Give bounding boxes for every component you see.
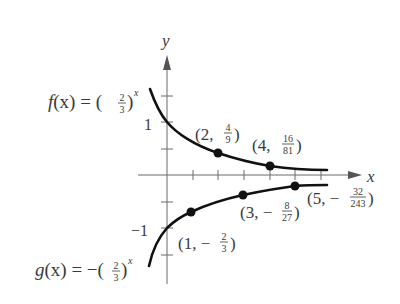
x-axis-label: x [366,167,375,186]
axes: x y 1 −1 [131,31,375,284]
label-point-2-4-9: (2, 4 9 ) [195,122,240,145]
point-f-2 [214,149,223,158]
y-axis-arrow-icon [163,55,171,70]
svg-text:g(x) = −(: g(x) = −( [35,259,104,281]
label-point-3-neg8-27: (3, − 8 27 ) [240,200,300,223]
svg-text:(5, −: (5, − [307,189,339,208]
point-g-3 [239,191,248,200]
point-g-1 [187,208,196,217]
label-point-4-16-81: (4, 16 81 ) [252,133,302,156]
svg-text:): ) [294,203,300,222]
point-g-5 [291,182,300,191]
svg-text:(1, −: (1, − [178,234,210,253]
svg-text:4: 4 [226,122,231,133]
svg-text:27: 27 [282,212,292,223]
svg-text:81: 81 [283,145,293,156]
svg-text:3: 3 [222,243,227,254]
svg-text:(2,: (2, [195,125,213,144]
svg-text:2: 2 [222,231,227,242]
svg-text:(4,: (4, [252,136,270,155]
svg-text:9: 9 [226,134,231,145]
svg-text:8: 8 [285,200,290,211]
svg-text:): ) [127,91,133,113]
svg-text:x: x [133,87,139,98]
svg-text:): ) [368,189,374,208]
y-axis-label: y [160,31,170,50]
svg-text:): ) [230,234,236,253]
label-point-5-neg32-243: (5, − 32 243 ) [307,186,374,209]
y-tick-label-1: 1 [144,116,152,133]
f-function-label: f(x) = ( 2 3 ) x [48,87,139,115]
y-tick-label-neg1: −1 [131,222,148,239]
svg-text:3: 3 [114,272,119,283]
g-curve [149,185,327,266]
svg-text:x: x [127,255,133,266]
point-f-4 [266,162,275,171]
exponential-graph: x y 1 −1 f(x) = ( 2 3 ) x g(x) = −( 2 3 … [0,0,400,304]
g-function-label: g(x) = −( 2 3 ) x [35,255,133,283]
svg-text:16: 16 [283,133,293,144]
svg-text:): ) [121,259,127,281]
svg-text:2: 2 [120,92,125,103]
svg-text:): ) [234,125,240,144]
svg-text:(3, −: (3, − [240,203,272,222]
svg-text:): ) [296,136,302,155]
svg-text:32: 32 [353,186,363,197]
label-point-1-neg2-3: (1, − 2 3 ) [178,231,236,254]
svg-text:243: 243 [351,198,366,209]
svg-text:2: 2 [114,260,119,271]
x-axis-arrow-icon [348,171,362,179]
svg-text:f(x) = (: f(x) = ( [48,91,102,113]
svg-text:3: 3 [120,104,125,115]
